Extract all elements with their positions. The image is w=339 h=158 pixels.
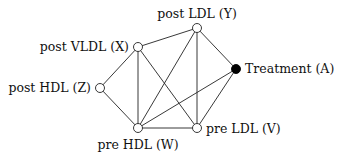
edge-a-v [197,69,236,128]
label-v: pre LDL (V) [206,121,281,136]
node-v-pre-ldl [193,124,202,133]
label-a: Treatment (A) [245,61,334,76]
label-w: pre HDL (W) [97,137,178,152]
node-w-pre-hdl [134,124,143,133]
node-x-post-vldl [134,43,143,52]
node-z-post-hdl [96,84,105,93]
node-a-treatment [232,65,241,74]
edge-a-w [138,69,236,128]
label-y: post LDL (Y) [157,6,237,21]
label-x: post VLDL (X) [40,39,129,54]
node-labels: post LDL (Y) post VLDL (X) Treatment (A)… [8,6,334,152]
node-y-post-ldl [193,24,202,33]
graph-diagram: post LDL (Y) post VLDL (X) Treatment (A)… [0,0,339,158]
edge-y-w [138,28,197,128]
label-z: post HDL (Z) [8,80,91,95]
edge-y-a [197,28,236,69]
edge-x-y [138,28,197,47]
edge-x-v [138,47,197,128]
edge-z-w [100,88,138,128]
